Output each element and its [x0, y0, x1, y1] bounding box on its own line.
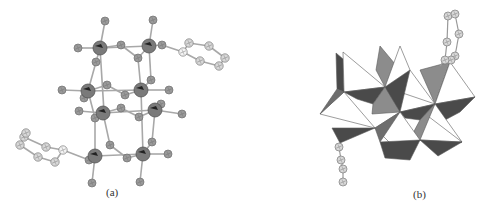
polyhedron-face — [420, 140, 462, 156]
oxygen-atom — [178, 110, 186, 118]
metal-atom — [136, 147, 150, 161]
ligand-atom — [339, 165, 347, 173]
metal-atom — [142, 39, 156, 53]
carbon-atom — [42, 143, 50, 151]
carbon-atom — [196, 57, 204, 65]
panel-b-caption: (b) — [413, 188, 426, 200]
metal-atom — [81, 84, 95, 98]
oxygen-atom — [136, 178, 144, 186]
oxygen-atom — [134, 54, 142, 62]
carbon-atom — [22, 129, 30, 137]
oxygen-atom — [88, 179, 96, 187]
metal-atom — [93, 41, 107, 55]
ligand-atom — [443, 38, 451, 46]
metal-atom — [134, 83, 148, 97]
metal-atom — [96, 106, 110, 120]
oxygen-atom — [58, 86, 66, 94]
carbon-atom — [215, 62, 223, 70]
polyhedron-face — [336, 53, 344, 92]
bond — [100, 48, 104, 112]
oxygen-atom — [117, 104, 125, 112]
nitrogen-atom — [59, 146, 67, 154]
ligand-atom — [451, 10, 459, 18]
carbon-atom — [34, 153, 42, 161]
oxygen-atom — [103, 81, 111, 89]
oxygen-atom — [101, 17, 109, 25]
oxygen-atom — [164, 150, 172, 158]
bond — [88, 90, 141, 91]
oxygen-atom — [75, 107, 83, 115]
panel-b-polyhedral — [320, 10, 475, 186]
oxygen-atom — [165, 86, 173, 94]
oxygen-atom — [106, 141, 114, 149]
ligand-atom — [337, 156, 345, 164]
ligand-atom — [339, 178, 347, 186]
oxygen-atom — [74, 44, 82, 52]
oxygen-atom — [121, 91, 129, 99]
carbon-atom — [16, 141, 24, 149]
panel-a-light-atoms — [58, 16, 186, 187]
ligand-atom — [441, 56, 449, 64]
carbon-atom — [185, 39, 193, 47]
oxygen-atom — [92, 58, 100, 66]
panel-a-ball-and-stick — [16, 16, 229, 187]
oxygen-atom — [148, 138, 156, 146]
polyhedron-face — [332, 128, 375, 143]
bond — [141, 90, 143, 154]
carbon-atom — [205, 42, 213, 50]
oxygen-atom — [149, 16, 157, 24]
oxygen-atom — [147, 76, 155, 84]
nitrogen-atom — [179, 48, 187, 56]
ligand-atom — [455, 30, 463, 38]
carbon-atom — [221, 54, 229, 62]
oxygen-atom — [158, 41, 166, 49]
carbon-atom — [51, 158, 59, 166]
oxygen-atom — [135, 113, 143, 121]
oxygen-atom — [117, 41, 125, 49]
metal-atom — [88, 149, 102, 163]
polyhedron-face — [380, 140, 420, 160]
oxygen-atom — [123, 154, 131, 162]
crystal-structure-figure — [0, 0, 482, 208]
metal-atom — [148, 103, 162, 117]
ligand-atom — [335, 143, 343, 151]
panel-a-pyridine-rings — [16, 39, 229, 166]
panel-a-caption: (a) — [106, 186, 118, 198]
